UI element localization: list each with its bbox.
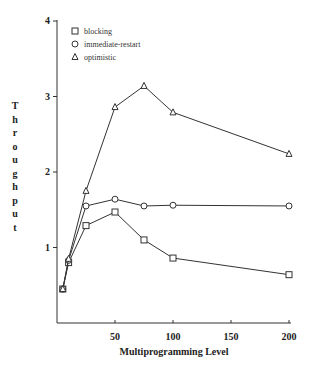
y-ticks: 1234 — [45, 15, 57, 253]
circle-marker — [141, 203, 147, 209]
square-marker — [112, 209, 118, 215]
axes — [57, 20, 291, 323]
y-axis-label-letter: u — [9, 154, 21, 165]
y-axis-label-letter: p — [9, 195, 21, 206]
legend-square-icon — [72, 28, 78, 34]
legend-triangle-icon — [72, 54, 78, 60]
y-tick-label: 4 — [45, 15, 50, 26]
x-tick-label: 100 — [166, 331, 181, 342]
circle-marker — [112, 196, 118, 202]
y-axis-label-letter: t — [9, 222, 21, 233]
y-axis-label-letter: u — [9, 208, 21, 219]
triangle-marker — [112, 104, 118, 110]
y-tick-label: 3 — [45, 91, 50, 102]
series-blocking — [60, 209, 292, 292]
square-marker — [170, 255, 176, 261]
data-series — [60, 82, 292, 292]
y-axis-label-letter: g — [9, 168, 21, 179]
square-marker — [141, 237, 147, 243]
legend-label: blocking — [84, 27, 112, 36]
x-tick-label: 150 — [224, 331, 239, 342]
y-axis-label-letter: o — [9, 141, 21, 152]
throughput-chart: 1234 50100150200 blockingimmediate-resta… — [0, 0, 311, 367]
y-tick-label: 2 — [45, 166, 50, 177]
series-immediate-restart — [60, 196, 292, 292]
legend-label: optimistic — [84, 53, 116, 62]
legend: blockingimmediate-restartoptimistic — [72, 27, 141, 62]
circle-marker — [286, 203, 292, 209]
series-line — [63, 199, 289, 289]
square-marker — [286, 272, 292, 278]
triangle-marker — [141, 82, 147, 88]
legend-label: immediate-restart — [84, 40, 141, 49]
square-marker — [83, 223, 89, 229]
x-tick-label: 50 — [110, 331, 120, 342]
y-axis-label-letter: r — [9, 127, 21, 138]
triangle-marker — [83, 187, 89, 193]
circle-marker — [83, 203, 89, 209]
series-line — [63, 212, 289, 289]
y-axis-label-letter: h — [9, 114, 21, 125]
y-axis-label-letter: h — [9, 181, 21, 192]
y-tick-label: 1 — [45, 242, 50, 253]
triangle-marker — [170, 109, 176, 115]
circle-marker — [170, 202, 176, 208]
x-axis-label: Multiprogramming Level — [120, 346, 229, 357]
y-axis-label-letter: T — [9, 100, 21, 111]
legend-circle-icon — [72, 41, 78, 47]
x-tick-label: 200 — [282, 331, 297, 342]
